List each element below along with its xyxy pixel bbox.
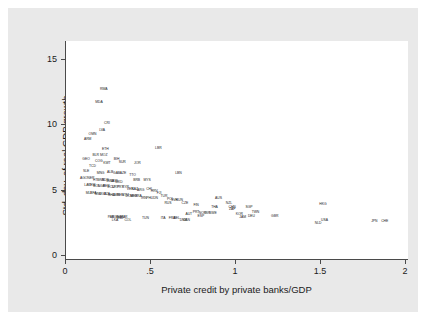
data-point-label: CZE — [181, 202, 188, 205]
data-point-label: BLR — [92, 155, 98, 158]
data-point-label: LBN — [175, 173, 181, 176]
data-point-label: RWA — [100, 88, 108, 91]
y-tick-label-15: 15 — [27, 54, 57, 64]
data-point-label: KWT — [103, 162, 110, 165]
x-tick-mark-0 — [65, 260, 66, 264]
data-point-label: SWE — [209, 212, 217, 215]
data-point-label: CHE — [381, 220, 388, 223]
y-tick-label-5: 5 — [27, 185, 57, 195]
x-tick-label-1-5: 1.5 — [300, 266, 340, 276]
data-point-label: GBR — [271, 215, 278, 218]
x-tick-mark-2 — [405, 260, 406, 264]
data-point-label: LVA — [99, 129, 105, 132]
data-point-label: MYS — [143, 179, 150, 182]
data-point-label: MNG — [97, 173, 105, 176]
data-point-layer: RWAMDACRILVAOMNARMLBRETHBLRMOZGEOCOGBIHK… — [66, 41, 408, 259]
data-point-label: DEU — [248, 215, 255, 218]
data-point-label: ESP — [198, 215, 205, 218]
data-point-label: SGP — [246, 206, 253, 209]
data-point-label: JAM — [239, 216, 246, 219]
data-point-label: ZAF — [229, 209, 235, 212]
scatter-plot-figure: Std. dev. of real GDP growth 15 10 5 0 0… — [0, 0, 426, 320]
data-point-label: ARM — [84, 138, 91, 141]
x-tick-label-0-5: .5 — [130, 266, 170, 276]
data-point-label: TUN — [142, 218, 149, 221]
y-tick-label-0: 0 — [27, 250, 57, 260]
data-point-label: JPN — [371, 220, 377, 223]
data-point-label: AUT — [186, 214, 193, 217]
data-point-label: CRI — [104, 123, 110, 126]
data-point-label: ITA — [161, 218, 166, 221]
data-point-label: ARG — [137, 189, 144, 192]
data-point-label: HKG — [319, 203, 326, 206]
data-point-label: FIN — [193, 205, 198, 208]
data-point-label: MAR — [120, 216, 127, 219]
data-point-label: AZE — [120, 173, 126, 176]
x-tick-label-1: 1 — [215, 266, 255, 276]
data-point-label: COG — [95, 160, 103, 163]
data-point-label: ETH — [102, 148, 109, 151]
data-point-label: TTO — [129, 174, 136, 177]
figure-canvas: Std. dev. of real GDP growth 15 10 5 0 0… — [8, 8, 418, 312]
data-point-label: TCD — [89, 165, 96, 168]
x-axis-label: Private credit by private banks/GDP — [65, 284, 408, 295]
data-point-label: SLE — [83, 170, 89, 173]
data-point-label: IDN — [152, 197, 158, 200]
x-tick-mark-1-5 — [320, 260, 321, 264]
data-point-label: MOZ — [100, 155, 107, 158]
data-point-label: CAN — [183, 219, 190, 222]
data-point-label: AUS — [215, 197, 222, 200]
x-tick-label-2: 2 — [385, 266, 425, 276]
plot-area: RWAMDACRILVAOMNARMLBRETHBLRMOZGEOCOGBIHK… — [65, 41, 408, 260]
data-point-label: THA — [211, 206, 218, 209]
data-point-label: AGO — [80, 178, 87, 181]
data-point-label: NLD — [315, 223, 322, 226]
x-tick-mark-1 — [235, 260, 236, 264]
data-point-label: LBR — [155, 147, 161, 150]
data-point-label: RUS — [164, 202, 171, 205]
data-point-label: BRB — [133, 179, 140, 182]
data-point-label: USA — [321, 219, 328, 222]
data-point-label: OMN — [89, 133, 97, 136]
data-point-label: MDA — [95, 101, 102, 104]
data-point-label: JOR — [134, 162, 141, 165]
x-tick-label-0: 0 — [45, 266, 85, 276]
data-point-label: GEO — [82, 159, 89, 162]
y-tick-label-10: 10 — [27, 119, 57, 129]
data-point-label: MKD — [115, 182, 122, 185]
data-point-label: SUR — [119, 161, 126, 164]
x-tick-mark-0-5 — [150, 260, 151, 264]
